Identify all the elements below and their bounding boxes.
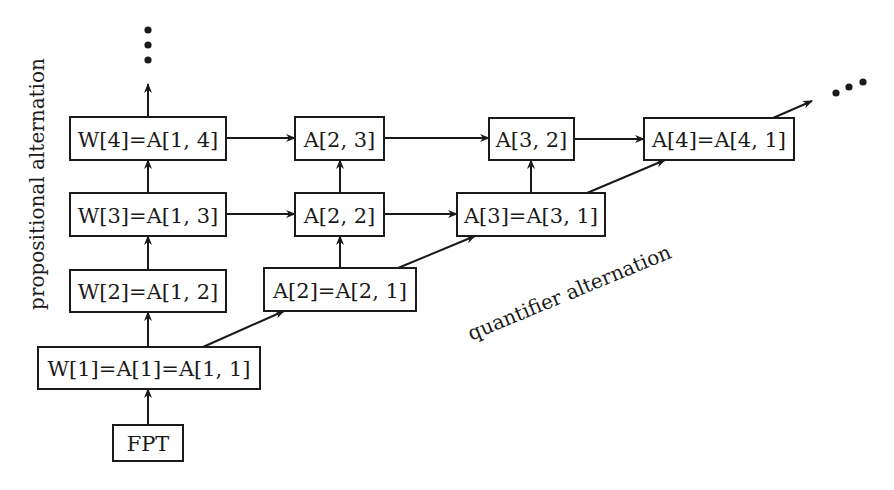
dot: [832, 89, 839, 96]
node-label: W[4]=A[1, 4]: [78, 128, 219, 152]
complexity-hierarchy-diagram: FPTW[1]=A[1]=A[1, 1]W[2]=A[1, 2]W[3]=A[1…: [0, 0, 894, 490]
vertical-ellipsis-icon: [144, 26, 151, 63]
node-a4: A[4]=A[4, 1]: [644, 118, 794, 160]
node-label: W[1]=A[1]=A[1, 1]: [47, 357, 250, 381]
node-label: A[3]=A[3, 1]: [463, 204, 598, 228]
node-label: FPT: [127, 432, 170, 456]
node-w1: W[1]=A[1]=A[1, 1]: [38, 347, 260, 389]
node-w4: W[4]=A[1, 4]: [70, 117, 226, 160]
node-a23: A[2, 3]: [295, 117, 384, 160]
quantifier-alternation-label: quantifier alternation: [464, 240, 675, 346]
node-label: A[2, 3]: [303, 128, 376, 152]
node-label: A[2, 2]: [303, 204, 376, 228]
dot: [144, 26, 151, 33]
node-a3: A[3]=A[3, 1]: [457, 193, 605, 236]
dot: [144, 56, 151, 63]
node-a2: A[2]=A[2, 1]: [264, 268, 416, 311]
node-label: W[3]=A[1, 3]: [78, 204, 219, 228]
arrow-a2-to-a3: [398, 236, 475, 268]
node-w2: W[2]=A[1, 2]: [70, 270, 226, 312]
dot: [144, 41, 151, 48]
nodes: FPTW[1]=A[1]=A[1, 1]W[2]=A[1, 2]W[3]=A[1…: [38, 117, 794, 461]
node-fpt: FPT: [113, 425, 183, 461]
node-a22: A[2, 2]: [295, 193, 384, 236]
diagonal-ellipsis-icon: [832, 78, 866, 96]
dot: [845, 83, 852, 90]
node-label: A[4]=A[4, 1]: [651, 128, 786, 152]
arrow-a4-to-continuation-diagonal: [773, 101, 812, 118]
node-a32: A[3, 2]: [489, 118, 574, 160]
arrow-w1-to-a2: [203, 311, 284, 347]
node-label: A[3, 2]: [495, 128, 568, 152]
node-w3: W[3]=A[1, 3]: [70, 193, 226, 236]
arrow-a3-to-a4: [587, 160, 665, 193]
propositional-alternation-label: propositional alternation: [25, 58, 49, 310]
ellipses: [144, 26, 866, 96]
node-label: A[2]=A[2, 1]: [272, 279, 407, 303]
dot: [859, 78, 866, 85]
node-label: W[2]=A[1, 2]: [78, 280, 219, 304]
